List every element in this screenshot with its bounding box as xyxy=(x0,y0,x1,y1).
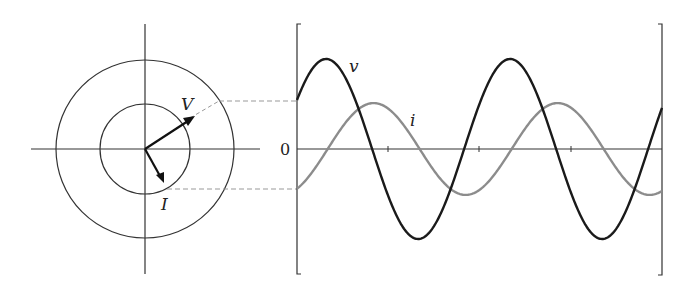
voltage-arrowhead-icon xyxy=(183,116,195,126)
current-phasor xyxy=(145,149,160,176)
voltage-phasor-extension xyxy=(190,101,219,118)
current-arrowhead-icon xyxy=(156,172,164,183)
voltage-waveform-label: v xyxy=(349,56,359,76)
current-phasor-label: I xyxy=(160,194,168,214)
zero-label: 0 xyxy=(280,140,290,159)
phasor-waveform-figure: V I 0 v i xyxy=(0,0,685,293)
current-waveform-label: i xyxy=(410,110,415,130)
voltage-phasor xyxy=(145,121,188,149)
voltage-phasor-label: V xyxy=(181,94,195,114)
